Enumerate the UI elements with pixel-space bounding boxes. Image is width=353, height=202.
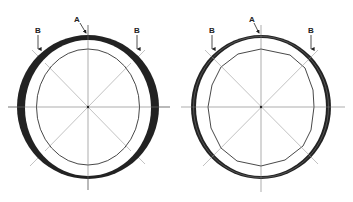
label-a: A bbox=[249, 15, 255, 24]
label-b-right: B bbox=[308, 26, 314, 35]
arrow-a bbox=[80, 23, 86, 33]
label-b-right: B bbox=[134, 26, 140, 35]
label-a: A bbox=[74, 15, 80, 24]
left-panel: A B B bbox=[8, 15, 170, 190]
diagram-canvas: A B B A B B bbox=[0, 0, 353, 202]
right-panel: A B B bbox=[181, 15, 345, 192]
label-b-left: B bbox=[35, 26, 41, 35]
center-point bbox=[87, 106, 89, 108]
arrow-a bbox=[254, 23, 259, 33]
label-b-left: B bbox=[209, 26, 215, 35]
center-point bbox=[260, 106, 262, 108]
